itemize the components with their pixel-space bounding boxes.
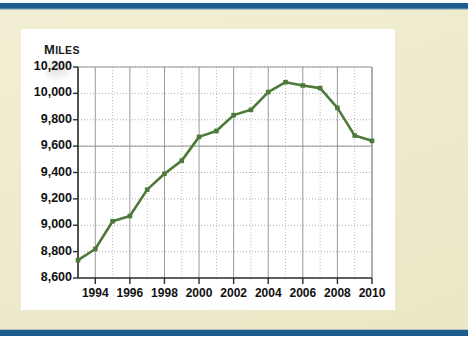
data-line xyxy=(78,82,372,260)
top-accent-bar-shadow xyxy=(0,8,476,10)
y-axis-tick-label: 9,000 xyxy=(14,217,72,231)
data-point-marker xyxy=(231,113,236,118)
data-point-marker xyxy=(301,83,306,88)
data-point-marker xyxy=(145,187,150,192)
y-axis-tick-label: 10,000 xyxy=(14,85,72,99)
page-bottom-margin xyxy=(0,336,476,350)
data-point-marker xyxy=(162,172,167,177)
data-point-marker xyxy=(128,214,133,219)
x-axis-tick-label: 2010 xyxy=(352,286,392,300)
screenshot-root: MILES 10,20010,0009,8009,6009,4009,2009,… xyxy=(0,0,476,350)
data-point-marker xyxy=(318,86,323,91)
plot-area: 10,20010,0009,8009,6009,4009,2009,0008,8… xyxy=(21,29,395,310)
data-point-marker xyxy=(266,90,271,95)
data-point-marker xyxy=(283,80,288,85)
data-point-marker xyxy=(76,258,81,263)
y-axis-tick-label: 9,800 xyxy=(14,112,72,126)
y-axis-tick-label: 10,200 xyxy=(14,59,72,73)
data-point-marker xyxy=(110,219,115,224)
page-right-margin xyxy=(468,0,476,350)
data-point-marker xyxy=(249,108,254,113)
y-axis-tick-label: 9,200 xyxy=(14,191,72,205)
data-point-marker xyxy=(197,135,202,140)
y-axis-tick-label: 9,400 xyxy=(14,165,72,179)
y-axis-tick-label: 9,600 xyxy=(14,138,72,152)
data-point-marker xyxy=(370,139,375,144)
data-point-marker xyxy=(93,247,98,252)
data-point-marker xyxy=(335,106,340,111)
data-point-marker xyxy=(352,133,357,138)
y-axis-tick-label: 8,600 xyxy=(14,270,72,284)
y-axis-tick-label: 8,800 xyxy=(14,244,72,258)
line-chart xyxy=(21,29,395,310)
data-point-marker xyxy=(179,158,184,163)
data-point-marker xyxy=(214,129,219,134)
